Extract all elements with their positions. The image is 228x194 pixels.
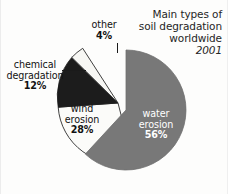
slice-label-water-erosion: water erosion 56%	[130, 109, 182, 141]
chart-title-line-1: Main types of	[126, 9, 222, 21]
slice-label-wind-erosion: wind erosion 28%	[56, 104, 108, 136]
chart-title-line-2: soil degradation	[126, 21, 222, 33]
leader-line-other	[117, 43, 118, 53]
slice-label-chemical-degradation: chemical degradation 12%	[4, 60, 66, 92]
chart-title-year: 2001	[126, 44, 222, 57]
slice-label-water-erosion-name-1: water	[143, 108, 170, 119]
slice-label-water-erosion-name-2: erosion	[139, 119, 173, 130]
pie-chart-figure: Main types of soil degradation worldwide…	[0, 0, 228, 194]
slice-label-other: other 4%	[82, 20, 126, 41]
slice-label-chemical-degradation-percent: 12%	[4, 81, 66, 92]
slice-label-water-erosion-percent: 56%	[145, 129, 168, 140]
slice-label-wind-erosion-percent: 28%	[56, 125, 108, 136]
chart-title: Main types of soil degradation worldwide…	[126, 9, 222, 57]
chart-title-line-3: worldwide	[126, 33, 222, 45]
slice-label-other-percent: 4%	[82, 31, 126, 42]
